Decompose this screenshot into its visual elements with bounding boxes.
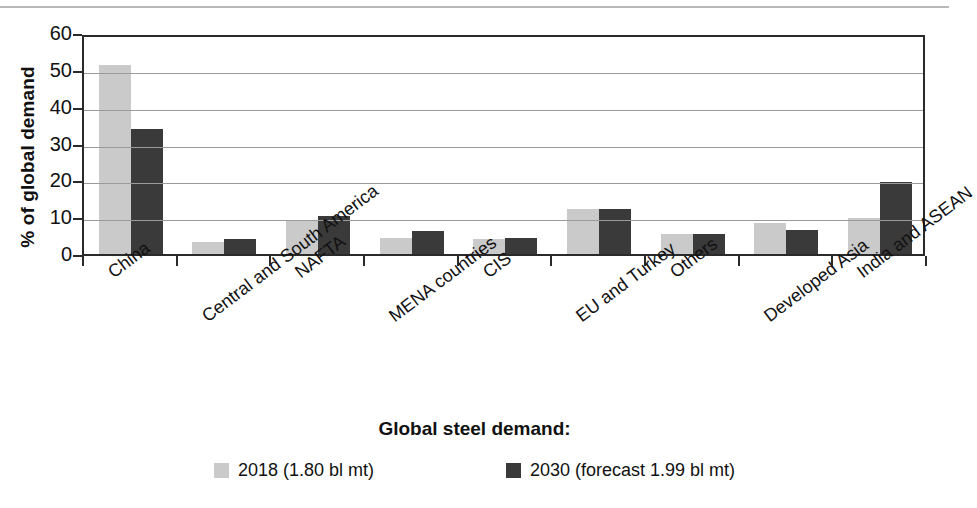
bar (412, 231, 444, 254)
light-gray-swatch (214, 463, 229, 478)
y-tick-mark (73, 218, 82, 220)
dark-gray-swatch (506, 463, 521, 478)
bar-group (365, 37, 459, 254)
legend: 2018 (1.80 bl mt)2030 (forecast 1.99 bl … (0, 460, 949, 481)
x-tick-mark (831, 256, 833, 266)
x-tick-mark (925, 256, 927, 266)
x-tick-mark (550, 256, 552, 266)
y-tick-mark (73, 34, 82, 36)
x-tick-mark (738, 256, 740, 266)
gridline (84, 220, 923, 221)
bar-group (84, 37, 178, 254)
legend-label: 2030 (forecast 1.99 bl mt) (530, 460, 735, 481)
bar (131, 129, 163, 254)
y-tick-mark (73, 181, 82, 183)
x-tick-mark (269, 256, 271, 266)
bars-layer (84, 37, 923, 254)
legend-item: 2018 (1.80 bl mt) (214, 460, 374, 481)
y-tick-mark (73, 145, 82, 147)
bar (192, 242, 224, 254)
plot-area (82, 35, 925, 256)
y-tick-mark (73, 71, 82, 73)
y-tick-label: 40 (26, 96, 72, 119)
gridline (84, 183, 923, 184)
bar (754, 223, 786, 254)
gridline (84, 110, 923, 111)
bar-group (459, 37, 553, 254)
x-tick-mark (82, 256, 84, 266)
x-tick-mark (457, 256, 459, 266)
bar (380, 238, 412, 254)
gridline (84, 147, 923, 148)
legend-label: 2018 (1.80 bl mt) (238, 460, 374, 481)
y-tick-label: 10 (26, 206, 72, 229)
x-tick-mark (363, 256, 365, 266)
legend-title: Global steel demand: (0, 418, 949, 440)
bar (505, 238, 537, 254)
y-tick-label: 50 (26, 59, 72, 82)
y-tick-label: 60 (26, 22, 72, 45)
bar (599, 209, 631, 254)
x-tick-mark (176, 256, 178, 266)
legend-item: 2030 (forecast 1.99 bl mt) (506, 460, 735, 481)
bar (786, 230, 818, 254)
y-tick-mark (73, 108, 82, 110)
bar-group (552, 37, 646, 254)
y-tick-label: 0 (26, 243, 72, 266)
y-tick-mark (73, 255, 82, 257)
bar-group (178, 37, 272, 254)
bar (99, 65, 131, 254)
y-tick-label: 30 (26, 133, 72, 156)
bar-group (646, 37, 740, 254)
y-tick-label: 20 (26, 169, 72, 192)
bar-group (740, 37, 834, 254)
bar (224, 239, 256, 254)
gridline (84, 73, 923, 74)
x-tick-mark (644, 256, 646, 266)
bar (567, 209, 599, 254)
